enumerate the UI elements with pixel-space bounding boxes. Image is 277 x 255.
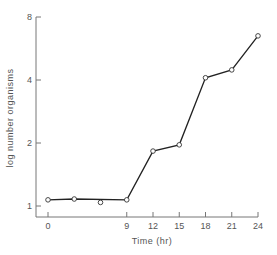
y-tick-label: 1 — [27, 201, 32, 211]
x-tick-label: 0 — [45, 221, 50, 231]
y-tick-label: 8 — [27, 12, 32, 22]
x-axis-title: Time (hr) — [132, 236, 173, 246]
data-point-marker — [229, 68, 234, 73]
axes: 1248091215182124 — [27, 12, 263, 231]
data-point-marker — [72, 197, 77, 202]
data-point-marker — [177, 143, 182, 148]
x-tick-label: 9 — [124, 221, 129, 231]
data-series — [46, 34, 261, 205]
y-tick-label: 2 — [27, 138, 32, 148]
data-point-marker — [203, 75, 208, 80]
data-point-marker — [256, 34, 261, 39]
x-tick-label: 12 — [148, 221, 158, 231]
x-tick-label: 24 — [253, 221, 263, 231]
data-point-marker — [46, 198, 51, 203]
data-point-marker — [124, 198, 129, 203]
data-line — [48, 36, 258, 200]
y-tick-label: 4 — [27, 75, 32, 85]
x-tick-label: 15 — [174, 221, 184, 231]
y-axis-title: log number organisms — [5, 68, 15, 167]
x-tick-label: 18 — [200, 221, 210, 231]
growth-curve-chart: 1248091215182124 Time (hr) log number or… — [0, 0, 277, 255]
data-point-marker — [151, 149, 156, 154]
x-tick-label: 21 — [227, 221, 237, 231]
data-point-marker — [98, 200, 103, 205]
